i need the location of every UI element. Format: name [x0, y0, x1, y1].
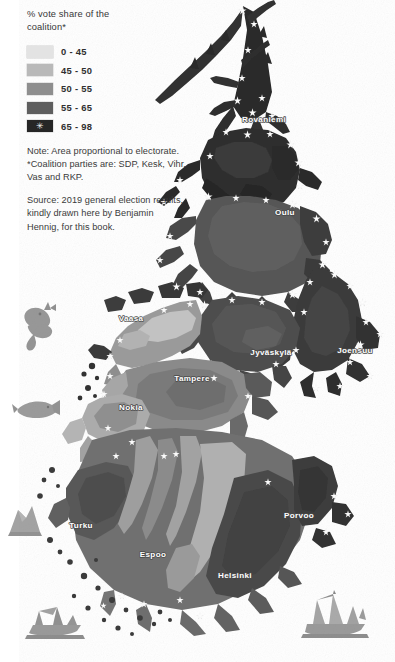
- city-label-joensuu: Joensuu: [337, 346, 373, 355]
- map-source: Source: 2019 general election results, k…: [27, 194, 242, 233]
- cartogram-figure: Rovaniemi Oulu Vaasa Jyväskylä Joensuu T…: [0, 0, 395, 662]
- region-south-central: [48, 428, 354, 636]
- legend-label-0-45: 0 - 45: [61, 46, 87, 57]
- sailing-ship-engraving: [301, 590, 369, 638]
- legend-row-65-98: ✳ 65 - 98: [27, 119, 242, 135]
- city-label-espoo: Espoo: [140, 550, 166, 559]
- map-note: Note: Area proportional to electorate. *…: [27, 145, 242, 184]
- city-label-nokia: Nokia: [119, 403, 143, 412]
- shipwreck-engraving: [25, 607, 85, 639]
- legend-swatch-45-50: [27, 64, 53, 76]
- iceberg-engraving: [8, 506, 42, 536]
- fish-engraving: [12, 400, 60, 418]
- legend-label-50-55: 50 - 55: [61, 83, 92, 94]
- legend-row-45-50: 45 - 50: [27, 63, 242, 79]
- legend-row-55-65: 55 - 65: [27, 100, 242, 116]
- legend-swatch-55-65: [27, 102, 53, 114]
- city-label-helsinki: Helsinki: [218, 571, 252, 580]
- sea-monster-engraving: [24, 302, 56, 351]
- city-label-turku: Turku: [69, 521, 93, 530]
- city-label-oulu: Oulu: [275, 208, 295, 217]
- city-label-jyvaskyla: Jyväskylä: [250, 348, 292, 357]
- legend-label-45-50: 45 - 50: [61, 65, 92, 76]
- legend-label-55-65: 55 - 65: [61, 102, 92, 113]
- legend-panel: % vote share of the coalition* 0 - 45 45…: [27, 8, 242, 234]
- legend-swatch-0-45: [27, 46, 53, 58]
- legend-row-0-45: 0 - 45: [27, 44, 242, 60]
- city-label-vaasa: Vaasa: [119, 314, 144, 323]
- high-share-marker-icon: ✳: [36, 122, 44, 131]
- legend-title: % vote share of the coalition*: [27, 8, 242, 35]
- city-label-rovaniemi: Rovaniemi: [242, 115, 286, 124]
- legend-label-65-98: 65 - 98: [61, 121, 92, 132]
- legend-row-50-55: 50 - 55: [27, 81, 242, 97]
- city-label-tampere: Tampere: [174, 374, 210, 383]
- city-label-porvoo: Porvoo: [284, 511, 314, 520]
- legend-class-list: 0 - 45 45 - 50 50 - 55 55 - 65 ✳ 65 - 98: [27, 44, 242, 134]
- legend-swatch-65-98: ✳: [27, 120, 53, 132]
- notes-block: Note: Area proportional to electorate. *…: [27, 145, 242, 234]
- legend-swatch-50-55: [27, 83, 53, 95]
